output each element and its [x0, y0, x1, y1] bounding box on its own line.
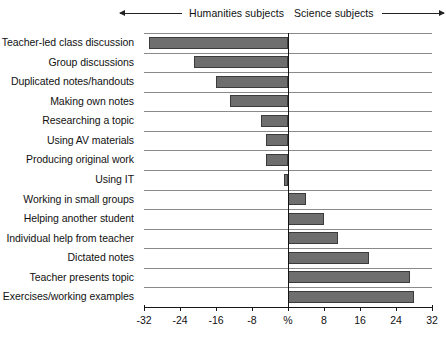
value-axis: -32-24-16-8%8162432	[144, 307, 432, 337]
x-tick-label: 24	[376, 314, 416, 326]
x-tick-mark	[252, 307, 253, 311]
x-tick-mark	[324, 307, 325, 311]
bar	[288, 213, 324, 225]
x-tick-mark	[432, 305, 433, 311]
bar	[288, 271, 410, 283]
bar	[288, 232, 338, 244]
category-label: Teacher-led class discussion	[0, 33, 138, 53]
x-tick-mark	[360, 307, 361, 311]
science-subjects-label: Science subjects	[294, 7, 374, 19]
category-label: Using IT	[0, 170, 138, 190]
x-tick-label: %	[268, 314, 308, 326]
bar	[149, 37, 289, 49]
category-label: Producing original work	[0, 150, 138, 170]
left-arrow-icon	[120, 13, 182, 14]
bar	[261, 115, 288, 127]
category-label: Researching a topic	[0, 111, 138, 131]
direction-header: Humanities subjects Science subjects	[144, 2, 432, 24]
bar	[194, 56, 289, 68]
x-tick-label: -24	[160, 314, 200, 326]
plot-area	[144, 33, 432, 307]
bar	[216, 76, 288, 88]
category-label: Individual help from teacher	[0, 229, 138, 249]
humanities-direction-group: Humanities subjects	[144, 2, 288, 24]
x-tick-mark	[144, 305, 145, 311]
zero-axis-line	[288, 33, 289, 307]
category-label: Duplicated notes/handouts	[0, 72, 138, 92]
x-tick-label: -8	[232, 314, 272, 326]
category-label: Helping another student	[0, 209, 138, 229]
bar	[288, 193, 306, 205]
bar	[266, 134, 289, 146]
category-label: Working in small groups	[0, 190, 138, 210]
category-label: Making own notes	[0, 92, 138, 112]
bar	[288, 291, 414, 303]
x-tick-mark	[180, 307, 181, 311]
x-tick-label: -32	[124, 314, 164, 326]
bar	[230, 95, 289, 107]
science-direction-group: Science subjects	[290, 2, 432, 24]
x-tick-mark	[288, 307, 289, 311]
category-label: Teacher presents topic	[0, 268, 138, 288]
humanities-subjects-label: Humanities subjects	[189, 7, 284, 19]
x-tick-label: 16	[340, 314, 380, 326]
x-tick-label: 8	[304, 314, 344, 326]
bar	[266, 154, 289, 166]
right-arrow-icon	[382, 13, 444, 14]
x-tick-label: 32	[412, 314, 446, 326]
x-tick-mark	[396, 307, 397, 311]
category-label: Using AV materials	[0, 131, 138, 151]
category-label: Exercises/working examples	[0, 287, 138, 307]
horizontal-bar-chart: Humanities subjects Science subjects Tea…	[0, 0, 446, 343]
category-axis-labels: Teacher-led class discussionGroup discus…	[0, 33, 138, 307]
category-label: Dictated notes	[0, 248, 138, 268]
x-tick-label: -16	[196, 314, 236, 326]
category-label: Group discussions	[0, 53, 138, 73]
x-tick-mark	[216, 307, 217, 311]
bar	[288, 252, 369, 264]
